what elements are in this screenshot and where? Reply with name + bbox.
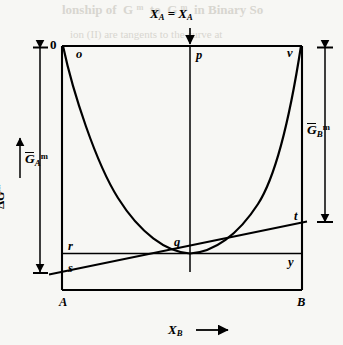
point-label-s: s [68,262,73,275]
free-energy-of-mixing-diagram: lonship of G m to G m in Binary So ion (… [0,0,343,345]
point-label-q: q [174,236,180,249]
point-label-v: v [287,47,293,60]
y-axis-zero-label: 0 [50,38,57,51]
axis-endpoint-label-B: B [297,296,305,309]
point-label-y: y [288,256,294,269]
axis-endpoint-label-A: A [59,296,67,309]
left-axis-label-delta-G: ΔGm [0,185,6,209]
bottom-axis-label: XB [168,323,182,338]
point-label-t: t [294,210,297,223]
point-label-r: r [68,240,73,253]
right-bracket-label: GBm [307,123,330,139]
left-bracket-label: GAm [25,152,48,168]
point-label-o: o [76,48,82,61]
top-axis-label: XA = XA [150,7,193,22]
free-energy-curve [63,46,301,254]
point-label-p: p [196,49,202,62]
